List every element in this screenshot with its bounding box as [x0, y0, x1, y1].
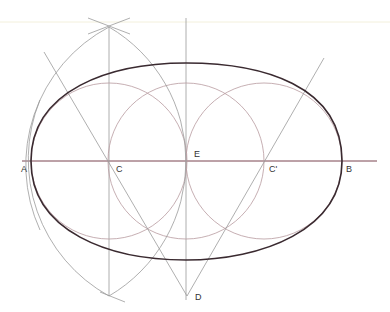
label-d: D: [195, 292, 202, 302]
label-a: A: [21, 164, 27, 174]
label-b: B: [346, 164, 352, 174]
label-c: C: [116, 164, 123, 174]
oval-construction-diagram: A C E C' B D: [0, 0, 390, 312]
label-c-prime: C': [269, 164, 277, 174]
line-d-through-c-prime: [187, 58, 324, 296]
large-arc-top: [109, 27, 186, 161]
label-e: E: [194, 149, 200, 159]
